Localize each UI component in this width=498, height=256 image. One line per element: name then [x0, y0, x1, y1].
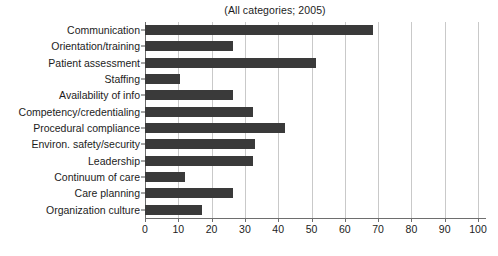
bar: [145, 58, 316, 68]
bar-row: Procedural compliance: [145, 120, 478, 136]
x-axis-label: 100: [469, 223, 487, 235]
x-axis-label: 0: [142, 223, 148, 235]
x-axis-label: 80: [406, 223, 418, 235]
x-axis-tick: [245, 218, 246, 222]
category-label: Availability of info: [59, 89, 140, 101]
bar: [145, 123, 285, 133]
x-axis-tick: [278, 218, 279, 222]
bar: [145, 107, 253, 117]
category-label: Organization culture: [46, 204, 140, 216]
category-label: Continuum of care: [54, 171, 140, 183]
bar: [145, 172, 185, 182]
category-label: Competency/credentialing: [19, 106, 140, 118]
bar-row: Communication: [145, 22, 478, 38]
x-axis-tick: [411, 218, 412, 222]
bar: [145, 188, 233, 198]
gridline-100: [478, 22, 479, 218]
category-label: Staffing: [105, 73, 140, 85]
bar-row: Patient assessment: [145, 55, 478, 71]
x-axis-label: 60: [339, 223, 351, 235]
x-axis-tick: [478, 218, 479, 222]
x-axis-tick: [445, 218, 446, 222]
x-axis-tick: [312, 218, 313, 222]
bar: [145, 74, 180, 84]
category-label: Procedural compliance: [33, 122, 140, 134]
category-label: Leadership: [88, 155, 140, 167]
bars-layer: CommunicationOrientation/trainingPatient…: [145, 22, 478, 218]
bar-row: Staffing: [145, 71, 478, 87]
x-axis-tick: [212, 218, 213, 222]
x-axis-tick: [145, 218, 146, 222]
bar: [145, 90, 233, 100]
x-axis-label: 30: [239, 223, 251, 235]
bar: [145, 139, 255, 149]
x-axis-label: 90: [439, 223, 451, 235]
bar-row: Competency/credentialing: [145, 104, 478, 120]
bar: [145, 205, 202, 215]
x-axis-tick: [178, 218, 179, 222]
category-label: Communication: [67, 24, 140, 36]
x-axis-label: 20: [206, 223, 218, 235]
bar-chart: (All categories; 2005) CommunicationOrie…: [0, 0, 498, 256]
category-label: Patient assessment: [48, 57, 140, 69]
chart-title: (All categories; 2005): [0, 4, 498, 16]
x-axis: 0102030405060708090100: [145, 218, 478, 248]
category-label: Orientation/training: [51, 40, 140, 52]
bar-row: Care planning: [145, 185, 478, 201]
plot-area: CommunicationOrientation/trainingPatient…: [145, 22, 478, 218]
bar-row: Availability of info: [145, 87, 478, 103]
x-axis-label: 50: [306, 223, 318, 235]
bar: [145, 156, 253, 166]
x-axis-tick: [378, 218, 379, 222]
bar-row: Orientation/training: [145, 38, 478, 54]
x-axis-tick: [345, 218, 346, 222]
bar-row: Continuum of care: [145, 169, 478, 185]
bar: [145, 25, 373, 35]
x-axis-label: 40: [272, 223, 284, 235]
category-label: Care planning: [75, 187, 140, 199]
bar-row: Leadership: [145, 153, 478, 169]
category-label: Environ. safety/security: [31, 138, 140, 150]
bar: [145, 41, 233, 51]
x-axis-label: 70: [372, 223, 384, 235]
bar-row: Organization culture: [145, 202, 478, 218]
bar-row: Environ. safety/security: [145, 136, 478, 152]
x-axis-label: 10: [172, 223, 184, 235]
